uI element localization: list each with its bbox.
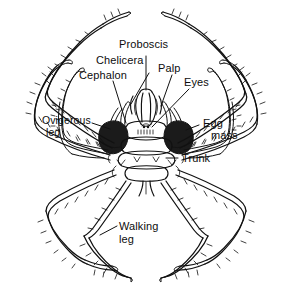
label-chelicera: Chelicera	[96, 54, 144, 66]
label-cephalon: Cephalon	[79, 69, 127, 81]
label-walking-leg-line2: leg	[119, 233, 134, 245]
label-egg-mass-line2: mass	[211, 129, 238, 141]
label-ovigerous-leg-line2: leg	[46, 126, 60, 138]
sea-spider-diagram: Proboscis Chelicera Cephalon Palp Eyes E…	[0, 0, 293, 289]
label-palp: Palp	[158, 62, 180, 74]
anatomy-figure: Proboscis Chelicera Cephalon Palp Eyes E…	[0, 0, 293, 289]
label-trunk: Trunk	[182, 152, 211, 164]
label-egg-mass-line1: Egg	[203, 117, 223, 129]
label-ovigerous-leg-line1: Ovigerous	[42, 114, 91, 126]
label-walking-leg-line1: Walking	[119, 220, 158, 232]
label-proboscis: Proboscis	[119, 38, 169, 50]
label-eyes: Eyes	[184, 76, 209, 88]
